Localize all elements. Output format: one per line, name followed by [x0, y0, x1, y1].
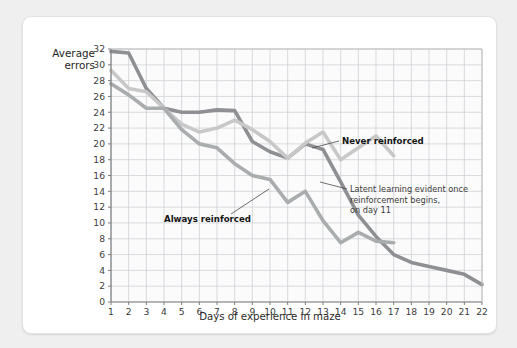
annotation-latent-learning: reinforcement begins, [350, 195, 440, 205]
annotation-latent-learning: Latent learning evident once [350, 184, 468, 194]
y-tick-label: 28 [93, 75, 105, 86]
x-tick-label: 22 [476, 306, 488, 317]
x-tick-label: 15 [352, 306, 364, 317]
y-tick-label: 12 [93, 201, 105, 212]
y-tick-label: 0 [99, 296, 105, 307]
y-tick-label: 18 [93, 154, 105, 165]
y-tick-label: 6 [99, 249, 105, 260]
x-tick-label: 17 [388, 306, 400, 317]
y-tick-label: 10 [93, 217, 105, 228]
x-tick-label: 2 [126, 306, 132, 317]
x-tick-label: 4 [161, 306, 167, 317]
y-tick-label: 14 [93, 186, 105, 197]
chart-plot-area: 0246810121416182022242628303212345678910… [23, 17, 496, 333]
y-axis-title-line2: errors [64, 59, 95, 71]
annotation-latent-learning: on day 11 [350, 205, 391, 215]
y-axis-title-line1: Average [52, 47, 95, 59]
y-tick-label: 2 [99, 280, 105, 291]
y-tick-label: 26 [93, 91, 105, 102]
x-tick-label: 1 [108, 306, 114, 317]
line-chart: 0246810121416182022242628303212345678910… [23, 17, 496, 333]
x-axis-title: Days of experience in maze [199, 311, 341, 322]
x-tick-label: 20 [441, 306, 453, 317]
y-tick-label: 4 [99, 265, 105, 276]
y-tick-label: 22 [93, 122, 105, 133]
y-tick-label: 24 [93, 107, 105, 118]
annotation-never-reinforced: Never reinforced [342, 136, 424, 146]
x-tick-label: 18 [405, 306, 417, 317]
y-tick-label: 30 [93, 59, 105, 70]
x-tick-label: 16 [370, 306, 382, 317]
x-tick-label: 19 [423, 306, 435, 317]
x-tick-label: 3 [143, 306, 149, 317]
x-tick-label: 21 [458, 306, 470, 317]
y-tick-label: 8 [99, 233, 105, 244]
y-tick-label: 32 [93, 43, 105, 54]
annotation-always-reinforced: Always reinforced [164, 214, 251, 224]
x-tick-label: 5 [179, 306, 185, 317]
figure-card: 0246810121416182022242628303212345678910… [22, 16, 497, 334]
y-tick-label: 20 [93, 138, 105, 149]
y-tick-label: 16 [93, 170, 105, 181]
